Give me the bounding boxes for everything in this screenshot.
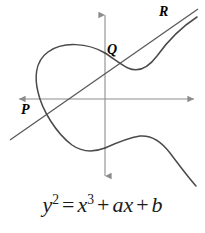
point-label-r: R <box>159 5 168 19</box>
equation-term2-variable: x <box>123 192 133 217</box>
secant-line <box>10 9 198 140</box>
equation-term2-coefficient: a <box>112 192 123 217</box>
equation-term1-exponent: 3 <box>87 192 94 207</box>
curve-lower-branch <box>105 136 196 186</box>
equation-plus-sign-1: + <box>94 192 112 217</box>
equation-term3-constant: b <box>152 192 163 217</box>
curve-equation: y2=x3+ax+b <box>0 192 205 218</box>
curve-upper-branch <box>105 17 197 70</box>
curve-canvas <box>0 0 205 195</box>
equation-term1-variable: x <box>77 192 87 217</box>
point-label-p: P <box>21 103 30 117</box>
point-label-q: Q <box>107 43 117 57</box>
elliptic-curve-figure: P Q R y2=x3+ax+b <box>0 0 205 233</box>
equation-lhs-variable: y <box>42 192 52 217</box>
equation-plus-sign-2: + <box>133 192 151 217</box>
equation-lhs-exponent: 2 <box>52 192 59 207</box>
equation-equals-sign: = <box>59 192 77 217</box>
